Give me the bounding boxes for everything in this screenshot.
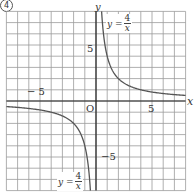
equation-label-lower: y = 4x <box>57 172 83 191</box>
hyperbola-plot <box>0 0 196 194</box>
equation-label-upper: y = 4x <box>106 14 132 33</box>
x-tick-5: 5 <box>148 104 154 114</box>
y-tick-5: 5 <box>87 44 93 54</box>
x-axis-label: x <box>187 96 193 107</box>
origin-label: O <box>86 104 94 114</box>
y-tick-neg5: −5 <box>101 152 116 162</box>
x-tick-neg5: − 5 <box>27 87 45 97</box>
y-axis-label: y <box>95 2 101 12</box>
